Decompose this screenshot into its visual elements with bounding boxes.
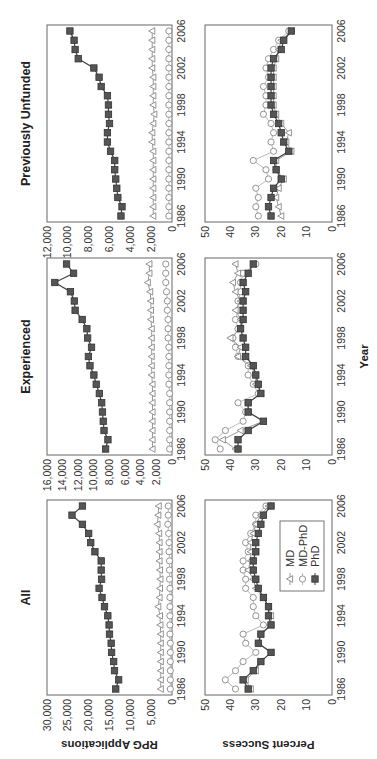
md-phd-point bbox=[165, 503, 171, 509]
phd-point bbox=[99, 409, 105, 415]
md-phd-point bbox=[164, 307, 170, 313]
phd-point bbox=[108, 649, 114, 655]
x-tick-label: 1986 bbox=[175, 437, 187, 461]
x-tick-label: 1986 bbox=[335, 677, 347, 701]
y-tick-label: 2,000 bbox=[145, 226, 157, 252]
phd-point bbox=[114, 185, 120, 191]
phd-point bbox=[106, 120, 112, 126]
md-phd-point bbox=[232, 668, 238, 674]
y-tick-label: 2,000 bbox=[150, 459, 162, 485]
md-phd-point bbox=[166, 37, 172, 43]
y-tick-label: 4,000 bbox=[124, 226, 136, 252]
phd-point bbox=[98, 558, 104, 564]
phd-point bbox=[242, 353, 248, 359]
phd-point bbox=[268, 102, 274, 108]
md-phd-point bbox=[167, 649, 173, 655]
phd-point bbox=[245, 270, 251, 276]
md-phd-point bbox=[245, 372, 251, 378]
md-phd-point bbox=[167, 604, 173, 610]
md-phd-point bbox=[240, 418, 246, 424]
x-tick-label: 2002 bbox=[175, 531, 187, 555]
x-tick-label: 2002 bbox=[335, 56, 347, 80]
all-applications-frame bbox=[47, 500, 172, 695]
x-tick-label: 1990 bbox=[175, 167, 187, 191]
phd-point bbox=[268, 503, 274, 509]
phd-point bbox=[110, 658, 116, 664]
experienced-success-frame bbox=[205, 258, 332, 455]
md-phd-point bbox=[255, 213, 261, 219]
md-phd-point bbox=[166, 83, 172, 89]
md-point bbox=[232, 261, 238, 268]
x-tick-label: 2002 bbox=[335, 531, 347, 555]
phd-point bbox=[71, 298, 77, 304]
y-tick-label: 30 bbox=[249, 699, 261, 711]
phd-point bbox=[270, 111, 276, 117]
x-tick-label: 2006 bbox=[335, 19, 347, 43]
md-phd-point bbox=[270, 130, 276, 136]
md-phd-point bbox=[166, 148, 172, 154]
phd-point bbox=[112, 167, 118, 173]
x-tick-label: 1990 bbox=[335, 400, 347, 424]
phd-point bbox=[79, 521, 85, 527]
phd-point bbox=[84, 326, 90, 332]
md-phd-point bbox=[166, 130, 172, 136]
phd-point bbox=[245, 686, 251, 692]
phd-point bbox=[258, 631, 264, 637]
md-phd-point bbox=[166, 558, 172, 564]
figure-rotated: 05,00010,00015,00020,00025,00030,0001986… bbox=[0, 0, 377, 759]
phd-point bbox=[250, 261, 256, 267]
phd-point bbox=[278, 46, 284, 52]
phd-point bbox=[70, 270, 76, 276]
all-applications-title: All bbox=[19, 590, 33, 606]
phd-point bbox=[260, 418, 266, 424]
legend-label-md-phd: MD-PhD bbox=[297, 525, 309, 567]
y-tick-label: 20 bbox=[275, 459, 287, 471]
x-tick-label: 2006 bbox=[175, 494, 187, 518]
md-phd-point bbox=[167, 677, 173, 683]
phd-point bbox=[250, 567, 256, 573]
phd-point bbox=[250, 558, 256, 564]
md-phd-point bbox=[240, 658, 246, 664]
phd-point bbox=[96, 390, 102, 396]
phd-point bbox=[112, 157, 118, 163]
y-tick-label: 40 bbox=[224, 699, 236, 711]
y-tick-label: 20,000 bbox=[82, 699, 94, 731]
phd-point bbox=[240, 316, 246, 322]
md-phd-point bbox=[166, 540, 172, 546]
phd-point bbox=[67, 28, 73, 34]
phd-point bbox=[113, 686, 119, 692]
phd-point bbox=[102, 446, 108, 452]
phd-point bbox=[242, 344, 248, 350]
md-phd-point bbox=[166, 353, 172, 359]
x-tick-label: 1990 bbox=[335, 167, 347, 191]
phd-point bbox=[99, 594, 105, 600]
md-phd-point bbox=[243, 576, 249, 582]
chart-figure: 05,00010,00015,00020,00025,00030,0001986… bbox=[0, 0, 377, 759]
md-phd-point bbox=[166, 363, 172, 369]
md-phd-point bbox=[212, 437, 218, 443]
phd-point bbox=[268, 622, 274, 628]
x-axis-label: Year bbox=[358, 344, 370, 369]
x-tick-label: 1994 bbox=[175, 604, 187, 628]
phd-point bbox=[106, 631, 112, 637]
y-tick-label: 5,000 bbox=[145, 699, 157, 725]
phd-point bbox=[268, 194, 274, 200]
phd-point bbox=[255, 585, 261, 591]
md-phd-point bbox=[166, 28, 172, 34]
md-phd-point bbox=[166, 576, 172, 582]
x-tick-label: 1998 bbox=[175, 326, 187, 350]
phd-point bbox=[260, 594, 266, 600]
md-phd-point bbox=[166, 74, 172, 80]
y-tick-label: 50 bbox=[199, 699, 211, 711]
y-tick-label: 50 bbox=[199, 459, 211, 471]
phd-point bbox=[278, 176, 284, 182]
x-tick-label: 1994 bbox=[175, 363, 187, 387]
phd-point bbox=[235, 446, 241, 452]
md-phd-point bbox=[260, 83, 266, 89]
x-tick-label: 1994 bbox=[175, 130, 187, 154]
phd-point bbox=[111, 668, 117, 674]
md-phd-point bbox=[222, 677, 228, 683]
md-phd-point bbox=[265, 176, 271, 182]
y-tick-label: 10 bbox=[300, 226, 312, 238]
phd-point bbox=[104, 130, 110, 136]
